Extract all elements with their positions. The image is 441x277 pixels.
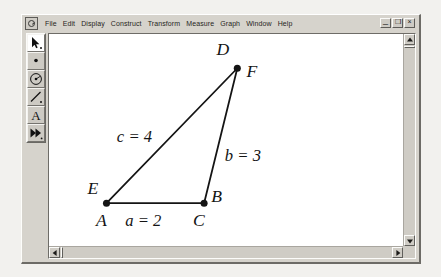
custom-transform-tool[interactable]	[27, 124, 45, 142]
menu-item-graph[interactable]: Graph	[217, 18, 243, 29]
segment-icon	[28, 89, 44, 105]
circle-icon	[28, 71, 44, 87]
minimize-button[interactable]: _	[380, 18, 391, 28]
point-tool[interactable]	[27, 52, 45, 70]
vertex-label-F[interactable]: F	[245, 61, 257, 81]
chevron-right-icon	[396, 250, 400, 256]
selection-arrow-tool[interactable]	[27, 34, 45, 52]
sketch-canvas-frame: D F E A B C c = 4 b = 3 a = 2	[48, 33, 416, 259]
scroll-left-button[interactable]	[49, 247, 60, 258]
measurement-a[interactable]: a = 2	[125, 211, 161, 230]
menu-item-file[interactable]: File	[42, 18, 60, 29]
segment-b[interactable]	[204, 68, 237, 203]
fast-forward-icon	[28, 125, 44, 141]
menu-item-help[interactable]: Help	[275, 18, 296, 29]
minimize-glyph: _	[381, 18, 390, 24]
compass-circle-tool[interactable]	[27, 70, 45, 88]
vertical-scrollbar[interactable]	[403, 34, 415, 246]
straightedge-segment-tool[interactable]	[27, 88, 45, 106]
window-body: A	[22, 31, 419, 262]
scroll-up-button[interactable]	[404, 34, 415, 45]
menu-item-display[interactable]: Display	[78, 18, 108, 29]
text-label-tool[interactable]: A	[27, 106, 45, 124]
measurement-c[interactable]: c = 4	[117, 127, 152, 146]
vertex-bottom-right[interactable]	[201, 200, 208, 207]
arrow-icon	[28, 35, 44, 51]
close-glyph: ×	[405, 18, 414, 26]
screenshot-page: File Edit Display Construct Transform Me…	[0, 0, 441, 277]
menu-item-measure[interactable]: Measure	[183, 18, 217, 29]
restore-button[interactable]: ❐	[392, 18, 403, 28]
sketchpad-icon[interactable]	[25, 17, 38, 30]
horizontal-scroll-thumb[interactable]	[61, 247, 63, 258]
vertex-label-E[interactable]: E	[87, 178, 99, 198]
scroll-down-button[interactable]	[404, 235, 415, 246]
menu-item-construct[interactable]: Construct	[108, 18, 145, 29]
vertex-top[interactable]	[234, 65, 241, 72]
point-icon	[28, 53, 44, 69]
window-controls: _ ❐ ×	[380, 18, 419, 28]
horizontal-scrollbar[interactable]	[49, 246, 403, 258]
chevron-left-icon	[52, 250, 56, 256]
sketch-area[interactable]: D F E A B C c = 4 b = 3 a = 2	[49, 34, 403, 246]
vertex-label-A[interactable]: A	[95, 210, 107, 230]
vertex-bottom-left[interactable]	[103, 200, 110, 207]
vertical-scroll-thumb[interactable]	[404, 46, 415, 48]
triangle-figure: D F E A B C c = 4 b = 3 a = 2	[49, 34, 403, 246]
sketchpad-window: File Edit Display Construct Transform Me…	[21, 14, 421, 264]
scrollbar-corner	[403, 246, 415, 258]
chevron-up-icon	[407, 37, 413, 41]
menu-item-transform[interactable]: Transform	[145, 18, 184, 29]
scroll-right-button[interactable]	[392, 247, 403, 258]
vertex-label-B[interactable]: B	[211, 186, 222, 206]
chevron-down-icon	[407, 239, 413, 243]
measurement-b[interactable]: b = 3	[225, 146, 261, 165]
toolbox: A	[26, 33, 46, 143]
svg-text:A: A	[31, 108, 41, 123]
menu-item-window[interactable]: Window	[243, 18, 275, 29]
vertex-label-C[interactable]: C	[193, 210, 205, 230]
vertex-label-D[interactable]: D	[215, 39, 229, 59]
restore-glyph: ❐	[393, 18, 402, 26]
menu-bar: File Edit Display Construct Transform Me…	[22, 15, 419, 31]
close-button[interactable]: ×	[404, 18, 415, 28]
menu-item-edit[interactable]: Edit	[60, 18, 78, 29]
text-a-icon: A	[28, 107, 44, 123]
